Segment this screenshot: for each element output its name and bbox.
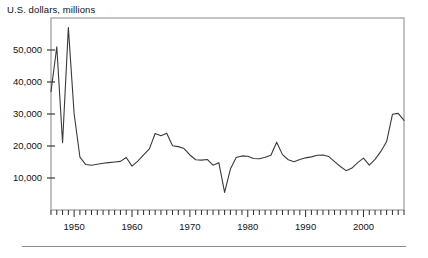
- line-chart-plot: 10,00020,00030,00040,00050,000 195019601…: [0, 0, 428, 258]
- svg-text:50,000: 50,000: [13, 44, 42, 55]
- x-axis-minor-ticks: [51, 210, 404, 217]
- chart-figure: U.S. dollars, millions 10,00020,00030,00…: [0, 0, 428, 258]
- svg-text:30,000: 30,000: [13, 108, 42, 119]
- svg-text:1960: 1960: [121, 221, 142, 232]
- y-axis-tick-labels: 10,00020,00030,00040,00050,000: [13, 44, 42, 183]
- svg-text:1990: 1990: [295, 221, 316, 232]
- svg-text:20,000: 20,000: [13, 140, 42, 151]
- svg-text:40,000: 40,000: [13, 76, 42, 87]
- svg-text:1970: 1970: [179, 221, 200, 232]
- svg-text:1950: 1950: [64, 221, 85, 232]
- x-axis-tick-labels: 195019601970198019902000: [64, 221, 374, 232]
- svg-text:1980: 1980: [237, 221, 258, 232]
- svg-text:2000: 2000: [353, 221, 374, 232]
- footer-divider: [22, 246, 406, 247]
- data-series-line: [51, 28, 404, 193]
- svg-text:10,000: 10,000: [13, 172, 42, 183]
